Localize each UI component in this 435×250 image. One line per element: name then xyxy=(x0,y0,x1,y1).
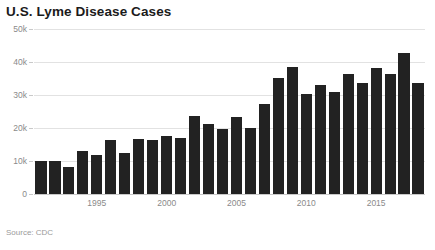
y-axis-tick-mark xyxy=(29,194,33,195)
bar xyxy=(231,117,242,194)
y-axis-tick-mark xyxy=(29,128,33,129)
bar xyxy=(133,139,144,194)
y-axis-tick-label: 50k xyxy=(0,24,27,34)
bar xyxy=(63,167,74,194)
page-title: U.S. Lyme Disease Cases xyxy=(6,4,171,19)
lyme-disease-bar-chart: U.S. Lyme Disease Cases 010k20k30k40k50k… xyxy=(0,0,435,250)
y-axis-tick-mark xyxy=(29,62,33,63)
bar xyxy=(371,68,382,194)
x-axis-tick-label: 2005 xyxy=(227,198,246,208)
gridline xyxy=(34,194,425,195)
bar xyxy=(77,151,88,194)
bar xyxy=(119,153,130,194)
bar xyxy=(245,128,256,194)
bar xyxy=(35,161,46,194)
bar xyxy=(398,53,409,194)
bar xyxy=(343,74,354,194)
bar xyxy=(203,124,214,194)
x-axis-tick-label: 2010 xyxy=(297,198,316,208)
y-axis-tick-mark xyxy=(29,95,33,96)
source-note: Source: CDC xyxy=(6,228,53,237)
bar xyxy=(287,67,298,194)
bar-series xyxy=(34,29,425,194)
x-axis-tick-label: 1995 xyxy=(87,198,106,208)
bar xyxy=(412,83,423,194)
bar xyxy=(91,155,102,194)
bar xyxy=(259,104,270,194)
plot-area xyxy=(34,29,425,194)
bar xyxy=(161,136,172,194)
y-axis-tick-label: 40k xyxy=(0,57,27,67)
bar xyxy=(329,92,340,194)
bar xyxy=(49,161,60,194)
bar xyxy=(273,78,284,194)
bar xyxy=(357,83,368,194)
y-axis-tick-label: 20k xyxy=(0,123,27,133)
x-axis: 19952000200520102015 xyxy=(0,198,435,212)
bar xyxy=(189,116,200,194)
bar xyxy=(301,94,312,194)
bar xyxy=(315,85,326,194)
y-axis-tick-mark xyxy=(29,161,33,162)
y-axis-tick-label: 10k xyxy=(0,156,27,166)
bar xyxy=(175,138,186,194)
y-axis-tick-mark xyxy=(29,29,33,30)
y-axis-tick-label: 30k xyxy=(0,90,27,100)
bar xyxy=(217,129,228,194)
x-axis-tick-label: 2015 xyxy=(367,198,386,208)
x-axis-tick-label: 2000 xyxy=(157,198,176,208)
bar xyxy=(147,140,158,194)
bar xyxy=(105,140,116,194)
bar xyxy=(385,74,396,194)
